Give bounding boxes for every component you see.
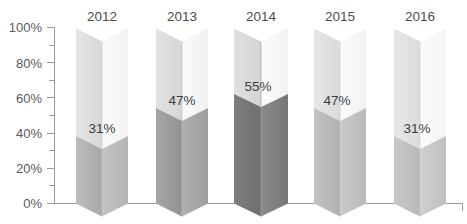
- bar-2015-value-left: [314, 108, 340, 217]
- bar-value-2013: 47%: [168, 93, 195, 108]
- y-axis-label-80: 80%: [16, 56, 42, 71]
- y-axis: 100% 80% 60% 40% 20% 0%: [9, 20, 55, 211]
- bar-2014-remainder-left: [234, 29, 261, 107]
- bar-value-2016: 31%: [403, 121, 430, 136]
- chart-container: 100% 80% 60% 40% 20% 0% 2012 31%: [0, 0, 467, 224]
- bar-2014-value-right: [261, 94, 288, 217]
- bar-label-2014: 2014: [246, 9, 277, 24]
- bar-label-2012: 2012: [87, 9, 117, 24]
- bar-value-2015: 47%: [323, 93, 350, 108]
- bar-2014-value-left: [234, 94, 261, 217]
- bar-2012-value-left: [76, 136, 102, 216]
- bar-2013-value-left: [156, 108, 182, 217]
- bar-group-2012[interactable]: 2012 31%: [76, 9, 128, 217]
- bar-value-2014: 55%: [244, 79, 271, 94]
- y-axis-label-60: 60%: [16, 91, 42, 106]
- bar-2016-value-right: [420, 136, 446, 216]
- y-axis-label-0: 0%: [23, 196, 42, 211]
- bar-group-2013[interactable]: 2013 47%: [156, 9, 208, 217]
- bar-chart-3d: 100% 80% 60% 40% 20% 0% 2012 31%: [0, 0, 467, 224]
- bar-group-2015[interactable]: 2015 47%: [314, 9, 366, 217]
- y-axis-label-100: 100%: [9, 20, 43, 35]
- bar-group-2016[interactable]: 2016 31%: [394, 9, 446, 217]
- bar-label-2013: 2013: [167, 9, 197, 24]
- bar-value-2012: 31%: [88, 121, 115, 136]
- bar-2015-value-right: [340, 108, 366, 217]
- bar-2016-value-left: [394, 136, 420, 216]
- bar-group-2014[interactable]: 2014 55%: [234, 9, 288, 217]
- bar-2014-remainder-right: [261, 29, 288, 107]
- y-axis-label-20: 20%: [16, 161, 42, 176]
- y-axis-label-40: 40%: [16, 126, 42, 141]
- bar-2012-value-right: [102, 136, 128, 216]
- bar-label-2015: 2015: [325, 9, 355, 24]
- bar-label-2016: 2016: [405, 9, 435, 24]
- bar-2013-value-right: [182, 108, 208, 217]
